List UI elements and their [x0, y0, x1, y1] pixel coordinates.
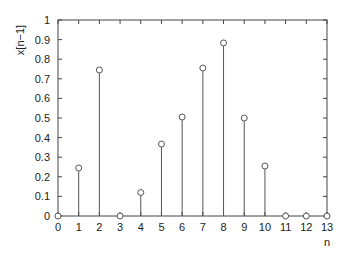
stem-chart: 00.10.20.30.40.50.60.70.80.91 0123456789… — [0, 0, 347, 255]
x-tick-label: 9 — [241, 221, 247, 233]
x-axis-label: n — [324, 236, 330, 248]
x-tick-label: 5 — [158, 221, 164, 233]
stem-marker — [200, 65, 206, 71]
data-series — [55, 40, 330, 219]
y-axis-label: x[n−1] — [14, 25, 26, 55]
x-tick-label: 13 — [321, 221, 333, 233]
y-tick-label: 0.2 — [35, 171, 50, 183]
y-tick-label: 0.6 — [35, 92, 50, 104]
x-tick-label: 0 — [55, 221, 61, 233]
stem-marker — [55, 213, 61, 219]
plot-frame — [58, 20, 327, 216]
x-tick-label: 7 — [200, 221, 206, 233]
stem-marker — [324, 213, 330, 219]
y-tick-label: 0 — [44, 210, 50, 222]
x-tick-label: 2 — [96, 221, 102, 233]
y-tick-label: 0.4 — [35, 132, 50, 144]
stem-marker — [96, 67, 102, 73]
stem-marker — [262, 163, 268, 169]
y-tick-label: 0.9 — [35, 34, 50, 46]
stem-marker — [283, 213, 289, 219]
stem-marker — [221, 40, 227, 46]
stem-marker — [76, 165, 82, 171]
y-tick-label: 0.7 — [35, 73, 50, 85]
x-tick-label: 4 — [138, 221, 144, 233]
stem-marker — [179, 114, 185, 120]
stem-marker — [138, 189, 144, 195]
y-tick-label: 0.1 — [35, 190, 50, 202]
stem-marker — [303, 213, 309, 219]
x-tick-label: 8 — [220, 221, 226, 233]
x-tick-label: 10 — [259, 221, 271, 233]
y-tick-label: 1 — [44, 14, 50, 26]
y-tick-label: 0.8 — [35, 53, 50, 65]
x-tick-label: 1 — [76, 221, 82, 233]
y-tick-label: 0.3 — [35, 151, 50, 163]
x-axis: 012345678910111213 — [55, 20, 333, 233]
plot-border — [58, 20, 327, 216]
stem-marker — [158, 141, 164, 147]
x-tick-label: 3 — [117, 221, 123, 233]
x-tick-label: 6 — [179, 221, 185, 233]
x-tick-label: 12 — [300, 221, 312, 233]
stem-marker — [241, 115, 247, 121]
y-tick-label: 0.5 — [35, 112, 50, 124]
x-tick-label: 11 — [280, 221, 291, 233]
stem-marker — [117, 213, 123, 219]
